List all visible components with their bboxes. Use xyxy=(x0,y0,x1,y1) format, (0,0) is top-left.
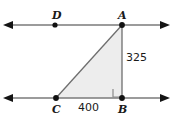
arrowhead-top-right-icon xyxy=(160,21,170,29)
point-label-d: D xyxy=(51,9,62,22)
arrowhead-bottom-right-icon xyxy=(160,94,170,102)
arrowhead-bottom-left-icon xyxy=(3,94,13,102)
point-label-c: C xyxy=(52,103,61,116)
measurement-label-ab: 325 xyxy=(126,51,147,64)
point-label-b: B xyxy=(117,103,127,116)
measurement-label-cb: 400 xyxy=(78,101,99,114)
geometry-figure: D A C B 325 400 xyxy=(0,0,179,117)
vertex-dot-a xyxy=(119,22,125,28)
vertex-dot-d xyxy=(52,22,57,27)
arrowhead-top-left-icon xyxy=(3,21,13,29)
vertex-dot-c xyxy=(53,95,59,101)
vertex-dot-b xyxy=(119,95,125,101)
line-top xyxy=(3,21,170,29)
geometry-canvas: D A C B 325 400 xyxy=(0,0,179,117)
point-label-a: A xyxy=(117,9,127,22)
